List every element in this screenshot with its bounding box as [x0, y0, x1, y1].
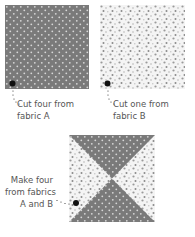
fabric-a-pattern	[5, 5, 89, 89]
label-line: Cut four from	[17, 98, 74, 110]
label-line: A and B	[5, 198, 53, 210]
label-line: from fabrics	[5, 186, 53, 198]
label-line: Cut one from	[113, 98, 169, 110]
label-line: fabric A	[17, 110, 74, 122]
fabric-b-label: Cut one from fabric B	[113, 98, 169, 122]
label-line: Make four	[5, 174, 53, 186]
hourglass-label: Make four from fabrics A and B	[5, 174, 53, 210]
fabric-a-swatch	[5, 5, 89, 89]
dotted-leader-icon	[56, 199, 82, 211]
fabric-a-label: Cut four from fabric A	[17, 98, 74, 122]
fabric-b-swatch	[100, 5, 185, 89]
label-line: fabric B	[113, 110, 169, 122]
fabric-b-pattern	[100, 5, 185, 89]
pointer-dot-hourglass	[56, 199, 82, 211]
